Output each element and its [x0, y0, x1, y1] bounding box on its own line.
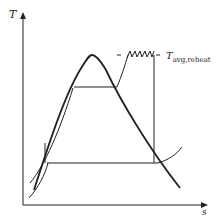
y-axis-arrow [20, 12, 26, 19]
saturation-dome [34, 55, 180, 190]
t-avg-main: T [166, 50, 173, 61]
condenser-pressure-curve [158, 147, 182, 163]
y-axis-label: T [9, 8, 16, 21]
superheat-curve [117, 55, 128, 87]
t-avg-reheat-label: Tavg,reheat [166, 50, 211, 64]
t-avg-subscript: avg,reheat [173, 56, 211, 64]
x-axis-label: s [202, 207, 207, 217]
ts-diagram: T s Tavg,reheat [0, 0, 221, 224]
diagram-graphics [0, 0, 221, 224]
reheat-zigzag [127, 51, 154, 58]
